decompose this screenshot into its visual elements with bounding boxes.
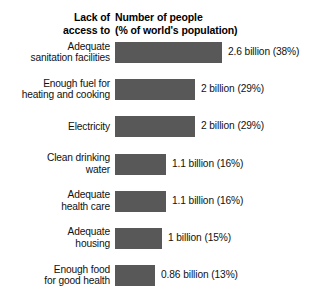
bar-category-label: Adequate health care xyxy=(2,189,110,213)
bar-category-label-line1: Adequate xyxy=(2,226,110,238)
bar-category-label: Electricity xyxy=(2,121,110,133)
category-axis-title: Lack of access to xyxy=(0,11,110,36)
bar-category-label-line2: sanitation facilities xyxy=(2,52,110,64)
bar-shape xyxy=(115,116,195,137)
bar-category-label-line1: Adequate xyxy=(2,189,110,201)
bar-row: Adequate housing 1 billion (15%) xyxy=(0,227,314,264)
bar-category-label: Adequate housing xyxy=(2,226,110,250)
category-axis-title-line1: Lack of xyxy=(0,11,110,24)
bar-category-label-line1: Enough food xyxy=(2,264,110,276)
category-axis-title-line2: access to xyxy=(0,24,110,37)
bar-row: Adequate sanitation facilities 2.6 billi… xyxy=(0,41,314,78)
bar-category-label-line1: Enough fuel for xyxy=(2,78,110,90)
bar-category-label: Enough fuel for heating and cooking xyxy=(2,78,110,102)
bar-shape xyxy=(115,265,155,286)
bar-category-label: Clean drinking water xyxy=(2,152,110,176)
value-axis-title-line2: (% of world's population) xyxy=(115,24,314,37)
bar-shape xyxy=(115,228,162,249)
bar-row: Enough fuel for heating and cooking 2 bi… xyxy=(0,78,314,115)
bar-value-label: 1 billion (15%) xyxy=(168,232,231,244)
value-axis-title: Number of people (% of world's populatio… xyxy=(115,11,314,36)
bar-value-label: 0.86 billion (13%) xyxy=(161,269,238,281)
bar-category-label-line2: water xyxy=(2,164,110,176)
bar-category-label-line2: for good health xyxy=(2,275,110,287)
bar-row: Adequate health care 1.1 billion (16%) xyxy=(0,190,314,227)
bar-value-label: 2.6 billion (38%) xyxy=(228,46,299,58)
bar-shape xyxy=(115,154,166,175)
bar-row: Enough food for good health 0.86 billion… xyxy=(0,264,314,299)
bar-value-label: 1.1 billion (16%) xyxy=(172,158,243,170)
bar-chart: Lack of access to Number of people (% of… xyxy=(0,0,314,299)
bar-shape xyxy=(115,42,222,63)
chart-header: Lack of access to Number of people (% of… xyxy=(0,11,314,41)
bar-category-label-line1: Adequate xyxy=(2,41,110,53)
bar-row: Clean drinking water 1.1 billion (16%) xyxy=(0,153,314,190)
bar-shape xyxy=(115,191,166,212)
bar-category-label-line1: Electricity xyxy=(2,121,110,133)
bar-value-label: 1.1 billion (16%) xyxy=(172,195,243,207)
bar-category-label-line2: health care xyxy=(2,201,110,213)
bar-category-label: Enough food for good health xyxy=(2,264,110,288)
value-axis-title-line1: Number of people xyxy=(115,11,314,24)
bar-row: Electricity 2 billion (29%) xyxy=(0,115,314,152)
bar-value-label: 2 billion (29%) xyxy=(201,120,264,132)
bar-shape xyxy=(115,79,195,100)
bar-category-label-line2: heating and cooking xyxy=(2,89,110,101)
bar-category-label-line1: Clean drinking xyxy=(2,152,110,164)
bar-category-label-line2: housing xyxy=(2,238,110,250)
bar-category-label: Adequate sanitation facilities xyxy=(2,41,110,65)
bar-rows: Adequate sanitation facilities 2.6 billi… xyxy=(0,41,314,299)
bar-value-label: 2 billion (29%) xyxy=(201,83,264,95)
